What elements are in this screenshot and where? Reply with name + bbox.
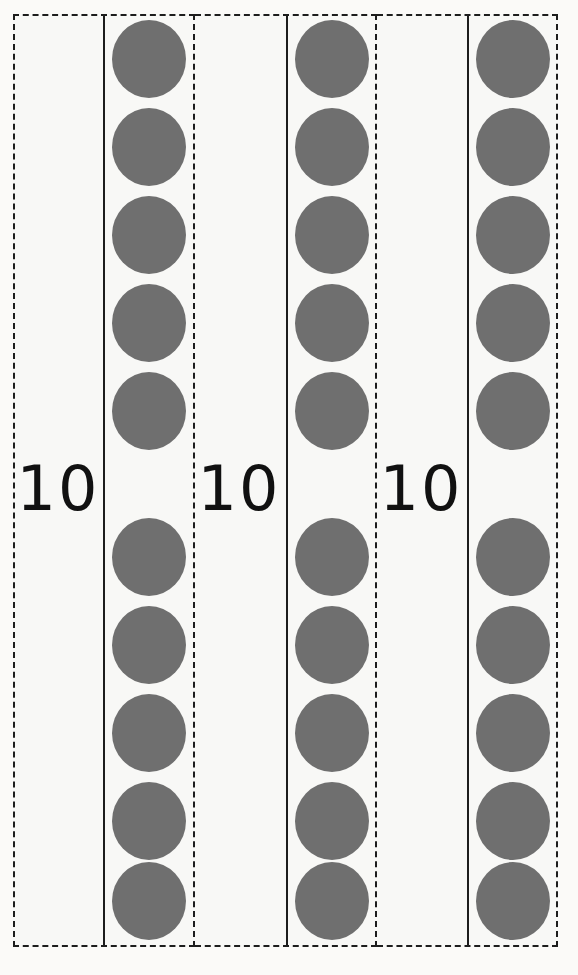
dot <box>295 372 369 450</box>
dot <box>112 782 186 860</box>
dot-column-2 <box>286 14 378 947</box>
worksheet-canvas: 101010 <box>0 0 578 975</box>
dot <box>295 606 369 684</box>
dot <box>112 372 186 450</box>
dot <box>295 108 369 186</box>
dot <box>476 694 550 772</box>
dot <box>476 862 550 940</box>
dot <box>476 372 550 450</box>
dot <box>112 518 186 596</box>
group-count-label-2: 10 <box>194 458 284 520</box>
dot <box>112 108 186 186</box>
group-count-label-1: 10 <box>13 458 103 520</box>
dot <box>112 862 186 940</box>
dot <box>476 782 550 860</box>
dot <box>112 606 186 684</box>
dot <box>476 20 550 98</box>
dot <box>476 108 550 186</box>
dot <box>295 284 369 362</box>
dot <box>295 20 369 98</box>
dot <box>112 284 186 362</box>
dot <box>295 694 369 772</box>
dot <box>112 694 186 772</box>
dot-column-3 <box>467 14 559 947</box>
dot <box>476 606 550 684</box>
group-count-label-3: 10 <box>376 458 466 520</box>
dot <box>476 284 550 362</box>
dot <box>112 196 186 274</box>
dot <box>295 862 369 940</box>
dot <box>112 20 186 98</box>
dot <box>295 196 369 274</box>
dot <box>295 782 369 860</box>
dot <box>295 518 369 596</box>
dot <box>476 518 550 596</box>
dot <box>476 196 550 274</box>
dot-column-1 <box>103 14 195 947</box>
